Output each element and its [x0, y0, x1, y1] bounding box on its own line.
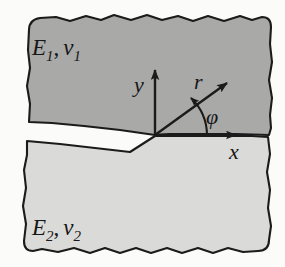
upper-E-symbol: E [31, 35, 46, 60]
lower-E-symbol: E [31, 215, 46, 240]
lower-label-comma: , [54, 215, 60, 240]
upper-label-comma: , [54, 35, 60, 60]
y-axis-label: y [132, 72, 144, 97]
lower-nu-subscript: 2 [74, 228, 82, 244]
x-axis-label: x [228, 139, 239, 164]
phi-angle-label: φ [206, 104, 218, 129]
upper-nu-subscript: 1 [74, 48, 82, 64]
upper-material-label: E1,ν1 [31, 35, 81, 64]
figure-canvas: E1,ν1 E2,ν2 y x r φ [0, 0, 285, 267]
diagram-svg: E1,ν1 E2,ν2 y x r φ [0, 0, 285, 267]
upper-material-shape [27, 15, 272, 135]
upper-E-subscript: 1 [46, 48, 54, 64]
r-ray-label: r [194, 69, 203, 94]
